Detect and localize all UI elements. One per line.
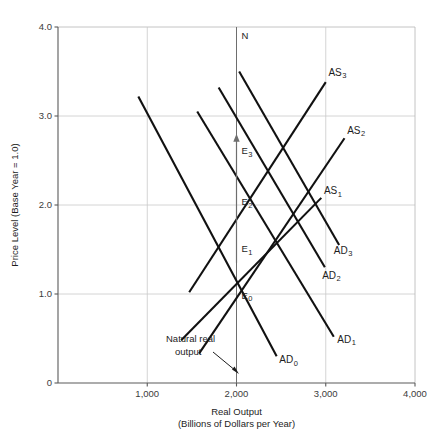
curve-as1 [181,198,321,340]
curve-label-ad0: AD0 [279,354,298,368]
curve-label-ad2: AD2 [322,270,341,284]
curve-label-as1: AS1 [324,185,342,199]
x-tick-label-1000: 1,000 [135,388,159,399]
x-tick-label-2000: 2,000 [225,388,249,399]
x-tick-label-3000: 3,000 [314,388,338,399]
equilibrium-points-layer: E0E1E2E3 [242,145,253,303]
curve-label-sub-ad0: 0 [294,359,298,368]
inflation-arrow [233,134,239,263]
curve-label-sub-as2: 2 [361,129,365,138]
equilibrium-label-e3: E3 [242,145,253,159]
x-tick-label-4000: 4,000 [403,388,427,399]
equilibrium-sub-e2: 2 [248,201,252,210]
curve-label-sub-ad3: 3 [348,249,352,258]
y-tick-label-1: 1.0 [39,288,52,299]
curve-label-sub-ad1: 1 [352,338,356,347]
x-axis-subtitle: (Billions of Dollars per Year) [178,418,295,429]
annotation-line-1: Natural real [166,333,215,344]
equilibrium-sub-e3: 3 [248,150,252,159]
y-tick-label-3: 3.0 [39,110,52,121]
curve-label-as3: AS3 [328,67,346,81]
curve-as2 [199,138,344,353]
chart-page: N E0E1E2E3 AD0AD1AD2AD3AS1AS2AS3 1,0002,… [0,0,446,445]
curve-label-sub-as3: 3 [342,71,346,80]
curve-label-sub-ad2: 2 [337,274,341,283]
annotation-leader-line [213,352,236,371]
natural-output-n-label: N [242,30,249,41]
inflation-arrow-head [233,134,239,142]
as-ad-chart: N E0E1E2E3 AD0AD1AD2AD3AS1AS2AS3 1,0002,… [0,0,446,445]
equilibrium-label-e1: E1 [242,243,253,257]
y-tick-label-4: 4.0 [39,21,52,32]
curve-ad2 [219,88,325,268]
y-tick-label-2: 2.0 [39,199,52,210]
x-axis-title: Real Output [211,406,262,417]
curves-layer [138,72,344,357]
curve-label-ad1: AD1 [337,334,356,348]
y-tick-label-0: 0 [47,377,52,388]
curve-label-as2: AS2 [347,125,365,139]
curve-label-ad3: AD3 [334,245,353,259]
axis-ticks-layer: 1,0002,0003,0004,00001.02.03.04.0 [39,21,427,399]
curve-label-sub-as1: 1 [338,190,342,199]
annotation-arrow-head [232,367,239,375]
annotation-line-2: output [175,346,202,357]
equilibrium-sub-e1: 1 [248,248,252,257]
y-axis-title: Price Level (Base Year = 1.0) [9,143,20,266]
curve-ad0 [138,96,276,356]
natural-output-annotation: Natural realoutput [166,333,239,374]
equilibrium-sub-e0: 0 [248,294,252,303]
